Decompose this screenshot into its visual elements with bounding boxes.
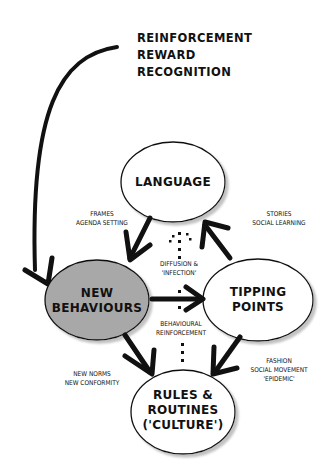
frames-line1: FRAMES bbox=[62, 210, 142, 219]
edge-label-stories: STORIES SOCIAL LEARNING bbox=[238, 210, 320, 228]
tipping-points-line2: POINTS bbox=[230, 300, 287, 315]
arrow-tipping-to-rules bbox=[213, 337, 240, 374]
reinforcement-list: REINFORCEMENT REWARD RECOGNITION bbox=[137, 30, 252, 81]
edge-label-diffusion: DIFFUSION & 'INFECTION' bbox=[148, 260, 210, 278]
frames-line2: AGENDA SETTING bbox=[62, 219, 142, 228]
new-behaviours-line2: BEHAVIOURS bbox=[52, 301, 142, 316]
behavioural-line1: BEHAVIOURAL bbox=[150, 320, 212, 329]
diffusion-line2: 'INFECTION' bbox=[148, 269, 210, 278]
label-reinforcement: REINFORCEMENT bbox=[137, 30, 252, 47]
diffusion-line1: DIFFUSION & bbox=[148, 260, 210, 269]
rules-routines-line3: ('CULTURE') bbox=[142, 418, 223, 433]
arrow-tipping-to-language bbox=[202, 222, 230, 258]
new-behaviours-line1: NEW bbox=[52, 286, 142, 301]
language-text: LANGUAGE bbox=[135, 175, 211, 190]
fashion-line3: 'EPIDEMIC' bbox=[240, 375, 318, 384]
behavioural-line2: REINFORCEMENT bbox=[150, 329, 212, 338]
arrow-behaviours-to-rules bbox=[125, 335, 154, 374]
rules-routines-line2: ROUTINES bbox=[142, 403, 223, 418]
arrow-behaviours-to-tipping bbox=[152, 287, 203, 310]
new-behaviours-label: NEW BEHAVIOURS bbox=[52, 286, 142, 316]
reinforcement-arrow bbox=[25, 47, 117, 284]
tipping-points-label: TIPPING POINTS bbox=[230, 285, 287, 315]
tipping-points-line1: TIPPING bbox=[230, 285, 287, 300]
new-norms-line1: NEW NORMS bbox=[56, 370, 128, 379]
fashion-line1: FASHION bbox=[240, 357, 318, 366]
edge-label-new-norms: NEW NORMS NEW CONFORMITY bbox=[56, 370, 128, 388]
edge-label-behavioural: BEHAVIOURAL REINFORCEMENT bbox=[150, 320, 212, 338]
stories-line1: STORIES bbox=[238, 210, 320, 219]
label-reward: REWARD bbox=[137, 47, 252, 64]
new-norms-line2: NEW CONFORMITY bbox=[56, 379, 128, 388]
rules-routines-label: RULES & ROUTINES ('CULTURE') bbox=[142, 388, 223, 433]
rules-routines-line1: RULES & bbox=[142, 388, 223, 403]
stories-line2: SOCIAL LEARNING bbox=[238, 219, 320, 228]
fashion-line2: SOCIAL MOVEMENT bbox=[240, 366, 318, 375]
language-label: LANGUAGE bbox=[135, 175, 211, 190]
label-recognition: RECOGNITION bbox=[137, 64, 252, 81]
edge-label-fashion: FASHION SOCIAL MOVEMENT 'EPIDEMIC' bbox=[240, 357, 318, 384]
edge-label-frames: FRAMES AGENDA SETTING bbox=[62, 210, 142, 228]
